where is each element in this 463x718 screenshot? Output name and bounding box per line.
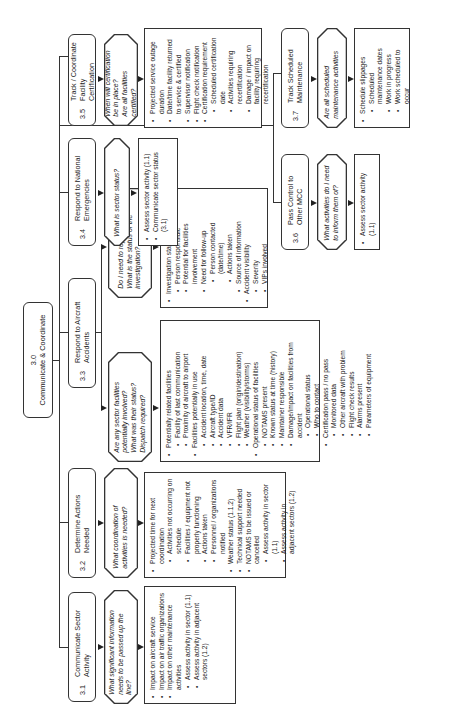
question-text: Are all scheduled maintenance activities (323, 37, 340, 118)
list-item: Flight check results (348, 326, 357, 428)
task-3-7[interactable]: 3.7 Track Scheduled Maintenance (281, 28, 309, 128)
list-item: Damage / impact on facility requiring re… (245, 34, 271, 104)
connector (101, 246, 102, 408)
list-item: Personnel / organizations notified (210, 478, 227, 554)
question-3-3a: Are any sector facilities potentially in… (108, 352, 152, 462)
list-item: Accident visibility Severity VIPs involv… (243, 194, 269, 294)
connector (95, 332, 102, 333)
connector (59, 56, 60, 648)
list-item: Flight plan (origin/destination) (235, 326, 244, 438)
list-item: Weather (visibility/storms) (243, 326, 252, 438)
arrow (311, 76, 317, 82)
list-item: Accident location, time, date (200, 326, 209, 438)
task-number: 3.7 (291, 111, 300, 121)
list-item: Flight check notification (193, 34, 202, 114)
list-item: Work in progress (385, 34, 394, 104)
question-text: Dispatch required? (139, 361, 148, 452)
list-item: Assess activity in adjacent sectors (1.2… (280, 478, 297, 554)
list-item: Activities not occurring on schedule (166, 478, 183, 554)
arrow (311, 200, 317, 206)
list-item: Impact on other maintenance activities A… (166, 592, 210, 690)
arrow (153, 405, 159, 411)
task-hierarchy-diagram: 3.0 Communicate & Coordinate 3.1 Communi… (0, 0, 463, 718)
root-number: 3.0 (29, 355, 38, 365)
task-3-5[interactable]: 3.5 Track / Coordinate Facility Certific… (68, 34, 96, 126)
task-number: 3.3 (78, 371, 87, 381)
task-title: Respond to National Emergencies (73, 145, 91, 221)
list-item: NOTAMS to be issued or cancelled Assess … (245, 478, 297, 564)
question-text: Are any sector facilities potentially in… (113, 361, 130, 452)
info-list-3-6: Assess sector activity (1.1) (354, 154, 380, 250)
info-list-3-7: Schedule slippages Scheduled maintenance… (354, 28, 410, 128)
list-item: Assess activity in sector (1.1) (184, 592, 193, 680)
list-item: Severity (252, 194, 261, 284)
info-list-3-3a: Potentially related facilities Facility … (160, 320, 320, 462)
task-number: 3.2 (78, 561, 87, 571)
task-title: Track / Coordinate Facility Certificatio… (69, 41, 96, 101)
list-item: Work scheduled to occur (394, 34, 411, 104)
list-item: Who to contact (313, 326, 322, 428)
question-3-7: Are all scheduled maintenance activities (317, 28, 347, 128)
task-title: Determine Actions Needed (73, 475, 91, 553)
list-item: Scheduled certification date (210, 34, 227, 104)
root-title: Communicate & Coordinate (38, 315, 47, 406)
arrow (98, 520, 104, 526)
arrow (98, 644, 104, 650)
list-item: Weather status (1.1.2) (227, 478, 236, 564)
list-item: Assess sector activity (1.1) (143, 144, 152, 232)
info-list-3-1: Impact on aircraft service Impact on air… (144, 586, 236, 704)
list-item: Known status at time (history) (269, 326, 278, 438)
list-item: Scheduled maintenance dates (368, 34, 385, 104)
task-number: 3.4 (78, 229, 87, 239)
list-item: Maintainer responsible (278, 326, 287, 438)
question-text: What activities do I need to inform them… (323, 163, 340, 240)
task-title: Track Scheduled Maintenance (286, 35, 304, 103)
list-item: Facilities potentially in use Accident l… (191, 326, 252, 448)
list-item: Person contacted (date/time) (209, 194, 226, 274)
task-number: 3.6 (291, 233, 300, 243)
list-item: NOTAMS present (261, 326, 270, 438)
arrow (131, 190, 137, 196)
arrow (101, 405, 107, 411)
list-item: Certification pass / no pass Monitored d… (322, 326, 374, 438)
list-item: Date/time facility returned to service &… (166, 34, 183, 114)
task-3-4[interactable]: 3.4 Respond to National Emergencies (68, 138, 96, 246)
list-item: Technical support needed (236, 478, 245, 564)
list-item: Monitored data (330, 326, 339, 428)
list-item: Communicate sector status (3.1) (152, 144, 169, 232)
info-list-3-2: Projected time for next coordination Act… (144, 472, 286, 578)
connector (273, 73, 281, 74)
list-item: Operational status (304, 326, 313, 428)
list-item: Source of information (235, 194, 244, 284)
list-item: Alarms present (356, 326, 365, 428)
list-item: VFR/IFR (226, 326, 235, 438)
list-item: Assess activity in sector (1.1) (262, 478, 279, 554)
list-item: Actions taken (201, 478, 210, 554)
question-3-2: What coordination of activities is neede… (104, 468, 138, 578)
list-item: Facilities / equipment not properly func… (184, 478, 201, 554)
list-item: Supervisor notification (184, 34, 193, 114)
task-3-6[interactable]: 3.6 Pass Control to Other MCC (281, 154, 309, 250)
list-item: Damage/impact on facilities from acciden… (287, 326, 322, 438)
task-title: Communicate Sector Activity (73, 599, 91, 677)
list-item: Aircraft type/ID (209, 326, 218, 438)
list-item: Schedule slippages Scheduled maintenance… (359, 34, 411, 114)
list-item: Potential for facilities involvement (182, 194, 199, 284)
list-item: Parameters of equipment (365, 326, 374, 428)
question-3-6: What activities do I need to inform them… (317, 154, 347, 250)
list-item: Operational status of facilities NOTAMS … (252, 326, 374, 448)
list-item: Proximity of aircraft to airport (182, 326, 191, 438)
root-task-3-0[interactable]: 3.0 Communicate & Coordinate (23, 302, 53, 418)
list-item: Facility of last communication (174, 326, 183, 438)
list-item: VIPs involved (261, 194, 270, 284)
question-3-4: What is sector status? (104, 138, 130, 246)
list-item: Potentially related facilities Facility … (165, 326, 191, 448)
task-title: Pass Control to Other MCC (286, 161, 304, 225)
task-3-1[interactable]: 3.1 Communicate Sector Activity (68, 592, 96, 702)
task-3-3[interactable]: 3.3 Respond to Aircraft Accidents (68, 278, 96, 388)
task-3-2[interactable]: 3.2 Determine Actions Needed (68, 468, 96, 578)
list-item: Activities requiring recertification (227, 34, 244, 104)
connector (273, 73, 274, 203)
task-number: 3.5 (78, 109, 87, 119)
question-text: What significant information needs to be… (108, 599, 134, 694)
